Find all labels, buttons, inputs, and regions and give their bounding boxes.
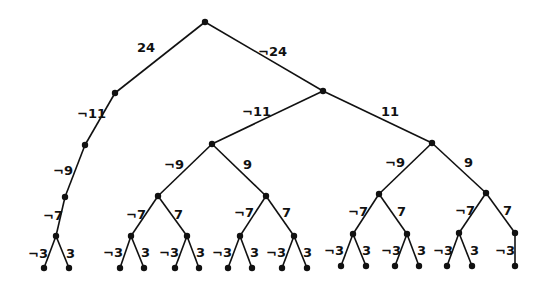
decision-tree-diagram: 24¬24¬11¬9¬7¬33¬1111¬99¬77¬77¬33¬33¬33¬3…: [0, 0, 545, 287]
edge-label: ¬3: [103, 245, 123, 260]
tree-node: [320, 88, 326, 94]
tree-node: [196, 265, 202, 271]
tree-node: [209, 141, 215, 147]
edge-label: 3: [250, 245, 259, 260]
edge-label: ¬11: [242, 104, 271, 119]
edge-label: ¬3: [495, 243, 515, 258]
tree-node: [350, 231, 356, 237]
tree-edge: [115, 22, 205, 93]
tree-node: [512, 263, 518, 269]
tree-node: [338, 263, 344, 269]
edge-label: ¬7: [455, 203, 475, 218]
tree-node: [141, 265, 147, 271]
tree-node: [512, 230, 518, 236]
edge-label: 9: [243, 157, 252, 172]
edge-label: 3: [303, 245, 312, 260]
tree-node: [291, 233, 297, 239]
tree-node: [184, 233, 190, 239]
edge-label: 7: [503, 203, 512, 218]
edge-label: ¬3: [266, 245, 286, 260]
tree-node: [416, 263, 422, 269]
tree-node: [263, 193, 269, 199]
tree-node: [117, 265, 123, 271]
tree-node: [392, 263, 398, 269]
edge-label: 3: [417, 243, 426, 258]
tree-node: [172, 265, 178, 271]
edge-label: 3: [66, 246, 75, 261]
tree-node: [376, 191, 382, 197]
tree-node: [53, 233, 59, 239]
edge-label: ¬7: [348, 204, 368, 219]
tree-node: [66, 265, 72, 271]
tree-node: [225, 265, 231, 271]
tree-node: [304, 265, 310, 271]
edge-label: ¬3: [381, 243, 401, 258]
tree-node: [444, 263, 450, 269]
tree-node: [62, 194, 68, 200]
tree-node: [456, 230, 462, 236]
edge-labels: 24¬24¬11¬9¬7¬33¬1111¬99¬77¬77¬33¬33¬33¬3…: [28, 40, 515, 261]
tree-node: [363, 263, 369, 269]
edge-label: ¬3: [212, 245, 232, 260]
tree-edge: [212, 144, 266, 196]
edge-label: ¬7: [43, 208, 63, 223]
tree-node: [404, 231, 410, 237]
tree-node: [155, 193, 161, 199]
edge-label: ¬11: [77, 106, 106, 121]
edge-label: ¬3: [159, 245, 179, 260]
edge-label: ¬3: [433, 243, 453, 258]
edge-label: 7: [282, 205, 291, 220]
tree-node: [237, 233, 243, 239]
edge-label: 11: [381, 104, 399, 119]
edge-label: ¬3: [28, 246, 48, 261]
tree-node: [112, 90, 118, 96]
edge-label: ¬7: [126, 207, 146, 222]
edge-label: ¬3: [324, 243, 344, 258]
tree-node: [202, 19, 208, 25]
tree-node: [429, 140, 435, 146]
edge-label: 3: [470, 243, 479, 258]
tree-node: [483, 190, 489, 196]
edge-label: ¬9: [385, 155, 405, 170]
edge-label: 24: [137, 40, 155, 55]
edge-label: ¬24: [258, 44, 287, 59]
edge-label: 7: [174, 207, 183, 222]
edge-label: ¬7: [234, 205, 254, 220]
edge-label: 9: [464, 155, 473, 170]
tree-edge: [432, 143, 486, 193]
edge-label: 3: [196, 245, 205, 260]
tree-node: [249, 265, 255, 271]
edge-label: 3: [141, 245, 150, 260]
tree-edge: [323, 91, 432, 143]
edge-label: 7: [397, 204, 406, 219]
tree-node: [279, 265, 285, 271]
edge-label: ¬9: [53, 163, 73, 178]
edge-label: 3: [362, 243, 371, 258]
tree-node: [82, 142, 88, 148]
tree-node: [41, 265, 47, 271]
tree-node: [128, 233, 134, 239]
tree-node: [469, 263, 475, 269]
edge-label: ¬9: [164, 157, 184, 172]
